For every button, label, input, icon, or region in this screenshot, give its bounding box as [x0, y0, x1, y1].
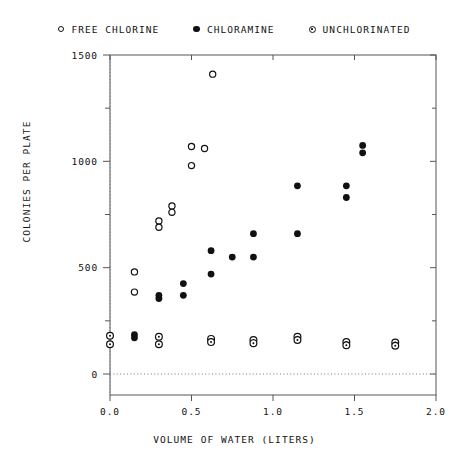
- data-point: [210, 71, 216, 77]
- data-point: [343, 182, 350, 189]
- data-point: [250, 230, 257, 237]
- data-point: [250, 254, 257, 261]
- data-point-center: [345, 344, 347, 346]
- x-tick-label: 0.0: [100, 406, 120, 417]
- data-point-center: [109, 335, 111, 337]
- scatter-plot-figure: FREE CHLORINE CHLORAMINE UNCHLORINATED C…: [0, 0, 469, 466]
- data-point: [169, 203, 175, 209]
- data-point-center: [158, 336, 160, 338]
- data-point: [156, 218, 162, 224]
- data-point: [359, 142, 366, 149]
- data-points-layer: [107, 71, 399, 349]
- data-point: [188, 162, 194, 168]
- data-point: [294, 182, 301, 189]
- data-point-center: [394, 345, 396, 347]
- data-point-center: [158, 343, 160, 345]
- data-point-center: [252, 342, 254, 344]
- data-point: [180, 280, 187, 287]
- data-point: [156, 295, 163, 302]
- data-point: [131, 334, 138, 341]
- data-point-center: [296, 339, 298, 341]
- series-unchlorinated: [107, 332, 399, 349]
- x-tick-label: 1.0: [263, 406, 283, 417]
- y-tick-label: 1000: [72, 156, 98, 167]
- data-point-center: [109, 343, 111, 345]
- data-point: [180, 292, 187, 299]
- tick-labels-layer: 0.00.51.01.52.0050010001500: [72, 50, 446, 418]
- y-tick-label: 1500: [72, 50, 98, 61]
- x-tick-label: 2.0: [426, 406, 446, 417]
- x-tick-label: 1.5: [345, 406, 365, 417]
- data-point: [294, 230, 301, 237]
- y-tick-label: 500: [78, 262, 98, 273]
- data-point: [208, 247, 215, 254]
- data-point: [229, 254, 236, 261]
- data-point: [131, 289, 137, 295]
- data-point: [208, 271, 215, 278]
- y-tick-label: 0: [91, 369, 98, 380]
- x-tick-label: 0.5: [182, 406, 202, 417]
- plot-canvas: 0.00.51.01.52.0050010001500: [0, 0, 469, 466]
- data-point: [201, 145, 207, 151]
- data-point: [169, 209, 175, 215]
- series-chloramine: [131, 142, 366, 341]
- data-point: [131, 269, 137, 275]
- data-point: [343, 194, 350, 201]
- axes-layer: [103, 55, 436, 401]
- series-free-chlorine: [131, 71, 215, 295]
- data-point: [188, 143, 194, 149]
- data-point-center: [210, 341, 212, 343]
- data-point: [359, 149, 366, 156]
- data-point: [156, 224, 162, 230]
